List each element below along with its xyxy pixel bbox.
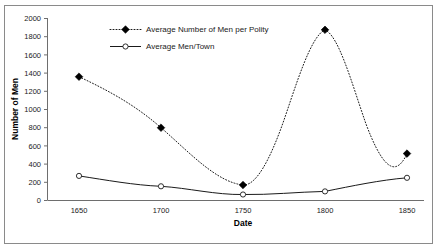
series-line-average-men-per-polity [79,30,407,185]
line-chart: 0 200 400 600 800 1000 1200 1400 1600 18… [0,0,438,250]
data-point-marker [76,173,81,178]
y-tick-marks [44,19,48,201]
x-tick-labels: 1650 1700 1750 1800 1850 [71,206,416,215]
legend-entry-average-men-per-polity: Average Number of Men per Polity [110,25,269,34]
y-tick-labels: 0 200 400 600 800 1000 1200 1400 1600 18… [24,14,41,205]
y-tick-label: 1800 [24,32,41,41]
y-tick-label: 1000 [24,105,41,114]
y-axis-title: Number of Men [10,78,20,140]
y-tick-label: 0 [37,196,41,205]
x-tick-label: 1750 [235,206,252,215]
data-point-marker [75,73,83,81]
x-tick-label: 1650 [71,206,88,215]
x-axis-title: Date [234,218,253,228]
y-tick-label: 1200 [24,87,41,96]
legend-label: Average Men/Town [146,42,214,51]
y-tick-label: 200 [28,178,41,187]
data-point-marker [404,175,409,180]
y-tick-label: 800 [28,123,41,132]
y-tick-label: 1600 [24,51,41,60]
legend-marker-filled-diamond [122,26,130,34]
y-tick-label: 400 [28,160,41,169]
y-tick-label: 600 [28,142,41,151]
chart-legend: Average Number of Men per Polity Average… [110,25,269,51]
x-tick-label: 1800 [317,206,334,215]
y-tick-label: 1400 [24,69,41,78]
y-tick-label: 2000 [24,14,41,23]
legend-entry-average-men-per-town: Average Men/Town [110,42,214,51]
data-point-marker [239,181,247,189]
data-point-marker [158,184,163,189]
legend-marker-open-circle [123,44,128,49]
data-point-marker [403,150,411,158]
data-point-marker [322,189,327,194]
chart-figure: 0 200 400 600 800 1000 1200 1400 1600 18… [0,0,438,250]
x-tick-label: 1850 [399,206,416,215]
data-point-marker [240,192,245,197]
x-tick-label: 1700 [153,206,170,215]
legend-label: Average Number of Men per Polity [146,25,269,34]
data-point-marker [321,26,329,34]
